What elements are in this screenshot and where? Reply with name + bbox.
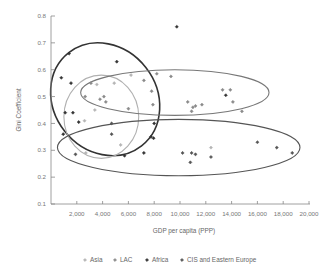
data-point	[129, 73, 132, 76]
legend-marker	[180, 258, 183, 261]
data-point	[151, 103, 154, 106]
y-axis-title: Gini Coefficient	[15, 88, 22, 131]
legend-label: CIS and Eastern Europe	[187, 256, 257, 264]
y-tick-label: 0.7	[37, 39, 46, 46]
data-point	[93, 108, 96, 111]
data-point	[142, 151, 145, 154]
x-tick-label: 6,000	[121, 210, 137, 217]
data-point	[175, 25, 178, 28]
x-tick-label: 4,000	[95, 210, 111, 217]
data-point	[186, 100, 189, 103]
data-point	[256, 141, 259, 144]
legend-label: Asia	[90, 256, 103, 263]
data-point	[74, 153, 77, 156]
y-tick-label: 0.2	[37, 173, 46, 180]
x-tick-label: 16,000	[248, 210, 267, 217]
y-tick-label: 0.4	[37, 120, 46, 127]
data-point	[71, 111, 74, 114]
legend-marker	[145, 258, 148, 261]
data-point	[221, 88, 224, 91]
data-point	[69, 82, 72, 85]
data-point	[98, 98, 101, 101]
x-tick-label: 14,000	[222, 210, 241, 217]
data-point	[190, 151, 193, 154]
ellipse-cis-and-eastern-europe	[57, 119, 300, 175]
x-tick-label: 18,000	[274, 210, 293, 217]
data-point	[142, 79, 145, 82]
legend-marker	[113, 258, 116, 261]
y-tick-label: 0.5	[37, 93, 46, 100]
data-points	[60, 25, 294, 164]
x-axis-ticks: 2,0004,0006,0008,00010,00012,00014,00016…	[69, 201, 319, 217]
data-point	[291, 151, 294, 154]
data-point	[104, 100, 107, 103]
ellipse-asia	[64, 75, 139, 158]
data-point	[102, 95, 105, 98]
data-point	[169, 75, 172, 78]
data-point	[110, 133, 113, 136]
data-point	[62, 133, 65, 136]
legend-marker	[83, 258, 86, 261]
x-tick-label: 2,000	[69, 210, 85, 217]
data-point	[181, 151, 184, 154]
data-point	[189, 161, 192, 164]
data-point	[194, 153, 197, 156]
data-point	[275, 146, 278, 149]
ellipse-lac	[81, 70, 269, 116]
scatter-chart: 0.10.20.30.40.50.60.70.8 2,0004,0006,000…	[0, 0, 333, 276]
data-point	[224, 94, 227, 97]
y-tick-label: 0.1	[37, 200, 46, 207]
data-point	[231, 100, 234, 103]
series-lac	[84, 72, 244, 113]
data-point	[209, 146, 212, 149]
data-point	[153, 122, 156, 125]
legend-label: LAC	[120, 256, 133, 263]
data-point	[200, 103, 203, 106]
data-point	[127, 107, 130, 110]
data-point	[190, 110, 193, 113]
data-point	[77, 120, 80, 123]
legend: AsiaLACAfricaCIS and Eastern Europe	[83, 256, 256, 264]
data-point	[95, 83, 98, 86]
data-point	[113, 82, 116, 85]
data-point	[115, 60, 118, 63]
x-tick-label: 8,000	[146, 210, 162, 217]
legend-label: Africa	[152, 256, 169, 263]
x-tick-label: 10,000	[171, 210, 190, 217]
data-point	[150, 90, 153, 93]
data-point	[83, 119, 86, 122]
data-point	[229, 88, 232, 91]
data-point	[84, 95, 87, 98]
data-point	[119, 143, 122, 146]
data-point	[60, 76, 63, 79]
x-axis-title: GDP per capita (PPP)	[153, 227, 215, 235]
data-point	[240, 110, 243, 113]
y-tick-label: 0.8	[37, 12, 46, 19]
x-tick-label: 12,000	[196, 210, 215, 217]
data-point	[155, 72, 158, 75]
x-tick-label: 20,000	[300, 210, 319, 217]
data-point	[209, 155, 212, 158]
y-tick-label: 0.3	[37, 146, 46, 153]
y-tick-label: 0.6	[37, 66, 46, 73]
group-ellipses	[28, 21, 300, 178]
